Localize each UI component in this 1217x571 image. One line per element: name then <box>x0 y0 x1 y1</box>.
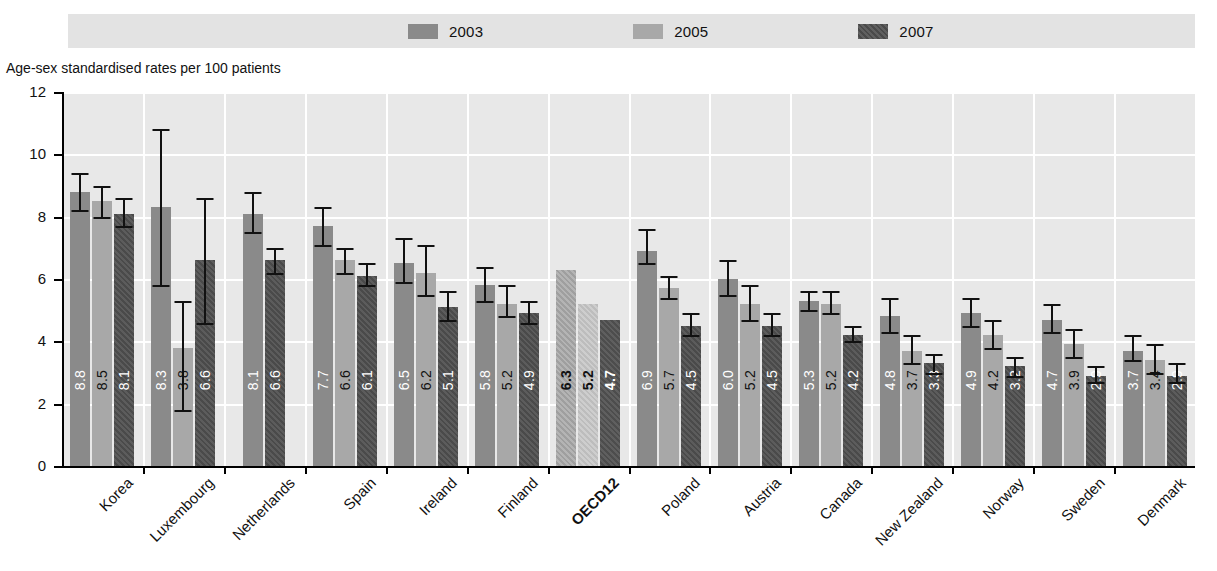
bar-slot: 5.1 <box>438 92 458 466</box>
legend-entry-2003[interactable]: 2003 <box>408 23 483 40</box>
bar[interactable]: 7.7 <box>313 226 333 466</box>
x-axis-label: Sweden <box>1057 474 1107 524</box>
error-bar-line <box>992 320 994 348</box>
error-bar-cap-lower <box>94 217 111 219</box>
bar[interactable]: 4.8 <box>880 316 900 466</box>
bar[interactable]: 6.9 <box>637 251 657 466</box>
bar[interactable]: 3.9 <box>1064 344 1084 466</box>
error-bar-line <box>1014 357 1016 376</box>
bar[interactable]: 4.9 <box>961 313 981 466</box>
bar-group: 8.88.58.1 <box>62 92 143 466</box>
bar[interactable]: 4.5 <box>762 326 782 466</box>
bar[interactable]: 8.5 <box>92 201 112 466</box>
error-bar-cap-upper <box>1006 357 1023 359</box>
error-bar-line <box>182 301 184 410</box>
bar[interactable]: 5.1 <box>438 307 458 466</box>
error-bar-cap-lower <box>660 298 677 300</box>
error-bar-cap-lower <box>396 282 413 284</box>
x-axis-label: Korea <box>96 474 136 514</box>
bar[interactable]: 6.5 <box>394 263 414 466</box>
bar-value-label: 8.1 <box>245 370 261 390</box>
error-bar-line <box>79 173 81 210</box>
error-bar-cap-upper <box>962 298 979 300</box>
legend-label-2007: 2007 <box>899 23 933 40</box>
error-bar-line <box>506 285 508 316</box>
bar-slot: 6.6 <box>335 92 355 466</box>
bar-group: 6.56.25.1 <box>386 92 467 466</box>
bar-group: 4.73.92.9 <box>1033 92 1114 466</box>
error-bar-cap-lower <box>245 232 262 234</box>
error-bar-cap-upper <box>245 192 262 194</box>
bar[interactable]: 8.8 <box>70 192 90 466</box>
legend-swatch-2003 <box>408 24 438 39</box>
bar-slot: 4.5 <box>681 92 701 466</box>
y-tick-label: 12 <box>16 83 46 100</box>
error-bar-cap-lower <box>315 245 332 247</box>
bar[interactable]: 3.2 <box>1005 366 1025 466</box>
bar-slot: 5.3 <box>799 92 819 466</box>
error-bar-line <box>160 129 162 285</box>
bar[interactable]: 4.9 <box>519 313 539 466</box>
bar[interactable]: 6.3 <box>556 270 576 466</box>
bar[interactable]: 2.9 <box>1167 376 1187 466</box>
error-bar-line <box>425 245 427 295</box>
bar[interactable]: 4.7 <box>1042 320 1062 466</box>
x-axis-label: OECD12 <box>568 474 622 528</box>
bar[interactable]: 5.2 <box>578 304 598 466</box>
bar[interactable]: 5.2 <box>497 304 517 466</box>
bar[interactable]: 8.1 <box>114 214 134 466</box>
legend-entry-2005[interactable]: 2005 <box>633 23 708 40</box>
error-bar-cap-upper <box>638 229 655 231</box>
bar[interactable]: 3.4 <box>1145 360 1165 466</box>
x-axis-labels: KoreaLuxembourgNetherlandsSpainIrelandFi… <box>0 466 1217 571</box>
bar-slot: 3.9 <box>1064 92 1084 466</box>
bar[interactable]: 8.1 <box>243 214 263 466</box>
error-bar-cap-upper <box>682 313 699 315</box>
error-bar-cap-upper <box>719 260 736 262</box>
bar[interactable]: 5.2 <box>740 304 760 466</box>
bar-value-label: 8.5 <box>94 370 110 390</box>
bar-value-label: 6.2 <box>418 370 434 390</box>
error-bar-cap-lower <box>337 273 354 275</box>
bar[interactable]: 6.2 <box>416 273 436 466</box>
error-bar-line <box>484 267 486 301</box>
bar[interactable]: 5.2 <box>821 304 841 466</box>
bar[interactable]: 4.2 <box>983 335 1003 466</box>
error-bar-cap-upper <box>763 313 780 315</box>
error-bar-cap-lower <box>521 323 538 325</box>
error-bar-cap-lower <box>741 320 758 322</box>
error-bar-line <box>528 301 530 323</box>
error-bar-line <box>101 186 103 217</box>
bar[interactable]: 4.5 <box>681 326 701 466</box>
bar[interactable]: 3.3 <box>924 363 944 466</box>
error-bar-cap-lower <box>800 310 817 312</box>
bar[interactable]: 6.1 <box>357 276 377 466</box>
bar[interactable]: 6.6 <box>335 260 355 466</box>
bar[interactable]: 4.2 <box>843 335 863 466</box>
bar-value-label: 4.2 <box>845 370 861 390</box>
error-bar-cap-upper <box>1043 304 1060 306</box>
error-bar-cap-lower <box>925 373 942 375</box>
bar-slot: 3.8 <box>173 92 193 466</box>
bar[interactable]: 5.8 <box>475 285 495 466</box>
error-bar-cap-upper <box>72 173 89 175</box>
bar[interactable]: 2.9 <box>1086 376 1106 466</box>
bar-group: 7.76.66.1 <box>305 92 386 466</box>
error-bar-cap-upper <box>881 298 898 300</box>
bar[interactable]: 3.7 <box>902 351 922 466</box>
y-tick-mark <box>54 154 63 156</box>
error-bar-line <box>322 207 324 244</box>
error-bar-line <box>749 285 751 319</box>
bar[interactable]: 5.3 <box>799 301 819 466</box>
bar[interactable]: 4.7 <box>600 320 620 466</box>
bar[interactable]: 5.7 <box>659 288 679 466</box>
error-bar-cap-lower <box>1043 332 1060 334</box>
bar[interactable]: 6.6 <box>265 260 285 466</box>
bar-slot: 6.6 <box>195 92 215 466</box>
error-bar-cap-lower <box>72 210 89 212</box>
bar[interactable]: 3.7 <box>1123 351 1143 466</box>
legend-entry-2007[interactable]: 2007 <box>858 23 933 40</box>
bar[interactable]: 6.0 <box>718 279 738 466</box>
bar-group: 5.85.24.9 <box>467 92 548 466</box>
error-bar-cap-lower <box>418 295 435 297</box>
